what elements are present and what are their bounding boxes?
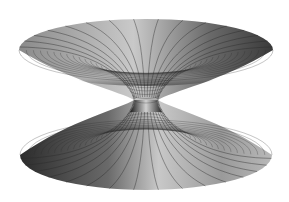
wormhole-figure (0, 0, 289, 202)
wormhole-surface (0, 0, 289, 202)
top-disc (19, 19, 273, 103)
